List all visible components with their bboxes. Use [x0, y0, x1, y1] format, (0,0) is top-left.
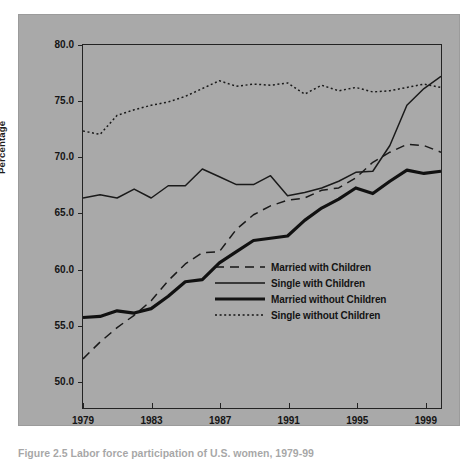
- legend-item: Single with Children: [214, 275, 454, 291]
- x-tick-mark: [357, 403, 358, 409]
- y-tick-mark: [78, 213, 83, 214]
- y-tick-mark: [78, 157, 83, 158]
- chart-legend: Married with ChildrenSingle with Childre…: [214, 259, 454, 323]
- chart-lines: [83, 45, 441, 408]
- legend-item: Married with Children: [214, 259, 454, 275]
- series-line-married-with-children: [83, 144, 441, 358]
- x-tick-mark: [83, 403, 84, 409]
- x-tick-mark: [152, 403, 153, 409]
- y-tick-mark: [78, 45, 83, 46]
- legend-swatch-solid-thin-icon: [214, 276, 266, 290]
- x-tick-label: 1987: [190, 415, 250, 426]
- legend-item: Married without Children: [214, 291, 454, 307]
- x-tick-label: 1991: [259, 415, 319, 426]
- x-tick-mark: [426, 403, 427, 409]
- series-line-single-without-children: [83, 81, 441, 135]
- x-tick-label: 1999: [396, 415, 456, 426]
- x-tick-label: 1995: [327, 415, 387, 426]
- legend-label: Married without Children: [266, 294, 386, 305]
- legend-item: Single without Children: [214, 307, 454, 323]
- figure-caption: Figure 2.5 Labor force participation of …: [18, 447, 468, 459]
- legend-swatch-solid-thick-icon: [214, 292, 266, 306]
- plot-area: 80.075.070.065.060.055.050.0 19791983198…: [82, 44, 442, 409]
- x-tick-label: 1979: [53, 415, 113, 426]
- figure-panel: Percentage 80.075.070.065.060.055.050.0 …: [18, 14, 460, 426]
- y-tick-mark: [78, 326, 83, 327]
- x-tick-mark: [220, 403, 221, 409]
- series-line-single-with-children: [83, 76, 441, 198]
- y-tick-mark: [78, 270, 83, 271]
- y-tick-mark: [78, 101, 83, 102]
- legend-label: Single without Children: [266, 310, 380, 321]
- x-tick-label: 1983: [122, 415, 182, 426]
- legend-label: Single with Children: [266, 278, 365, 289]
- legend-swatch-dotted-icon: [214, 308, 266, 322]
- x-tick-mark: [289, 403, 290, 409]
- y-axis-title: Percentage: [0, 54, 7, 174]
- legend-swatch-dashed-icon: [214, 260, 266, 274]
- y-tick-mark: [78, 382, 83, 383]
- legend-label: Married with Children: [266, 262, 371, 273]
